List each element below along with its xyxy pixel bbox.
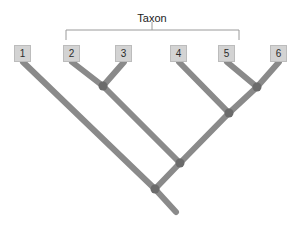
tree-node-n456 (225, 109, 234, 118)
tree-canvas (0, 0, 303, 230)
tree-branch (72, 62, 103, 86)
node-layer (99, 82, 262, 194)
taxon-box-label: 6 (276, 49, 282, 59)
tree-branch (155, 163, 180, 189)
taxon-box-label: 1 (20, 49, 26, 59)
tree-branch (257, 62, 279, 87)
root-branch (155, 189, 176, 212)
bracket-path (66, 30, 239, 40)
taxon-box-label: 5 (224, 49, 230, 59)
taxon-box-4[interactable]: 4 (170, 45, 187, 62)
taxon-box-6[interactable]: 6 (270, 45, 287, 62)
tree-branch (227, 62, 257, 87)
taxon-box-5[interactable]: 5 (218, 45, 235, 62)
tree-branch (179, 62, 229, 113)
taxon-box-label: 2 (69, 49, 75, 59)
tree-branch (180, 113, 229, 163)
taxon-bracket (66, 22, 239, 40)
tree-branch (103, 62, 124, 86)
tree-node-n56 (253, 83, 262, 92)
taxon-box-label: 4 (176, 49, 182, 59)
taxon-box-3[interactable]: 3 (115, 45, 132, 62)
taxon-box-1[interactable]: 1 (14, 45, 31, 62)
tree-node-n23456 (176, 159, 185, 168)
tree-node-root (151, 185, 160, 194)
tree-branch (229, 87, 257, 113)
tree-branch (23, 62, 155, 189)
phylogenetic-tree-figure: 123456 Taxon (0, 0, 303, 230)
tree-node-n23 (99, 82, 108, 91)
taxon-box-label: 3 (121, 49, 127, 59)
taxon-bracket-label: Taxon (1, 12, 304, 24)
taxon-box-2[interactable]: 2 (63, 45, 80, 62)
